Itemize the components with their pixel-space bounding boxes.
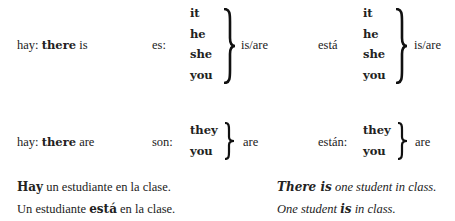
esta-bold: está	[89, 202, 117, 216]
pronoun-he: he	[190, 24, 213, 45]
sentence-rest: one student in class.	[332, 180, 437, 194]
es-pronoun-list: it he she you	[190, 3, 213, 85]
hay-label: hay:	[17, 135, 39, 149]
are-text: are	[79, 135, 94, 149]
sentence-pre: One student	[277, 202, 340, 216]
pronoun-he: he	[363, 24, 386, 45]
es-label: es:	[152, 38, 166, 52]
sentence-rest: in class.	[352, 202, 396, 216]
pronoun-they: they	[363, 120, 391, 141]
is-text: is	[79, 38, 87, 52]
right-brace-icon	[222, 8, 236, 84]
es-meaning: is/are	[241, 38, 268, 52]
is-bold: is	[340, 202, 351, 216]
esta-label: está	[318, 38, 337, 52]
pronoun-they: they	[190, 120, 218, 141]
there-bold: there	[42, 38, 76, 52]
hay-there-is: hay: there is	[17, 38, 88, 52]
sentence-rest: en la clase.	[117, 202, 175, 216]
estan-meaning: are	[415, 135, 430, 149]
estan-label: están:	[318, 135, 347, 149]
pronoun-it: it	[363, 3, 386, 24]
right-brace-icon	[394, 8, 408, 84]
pronoun-you: you	[190, 65, 213, 86]
son-pronoun-list: they you	[190, 120, 218, 161]
right-brace-icon	[396, 122, 408, 160]
there-is-bold: There is	[277, 180, 332, 194]
hay-there-are: hay: there are	[17, 135, 94, 149]
spanish-example-2: Un estudiante está en la clase.	[17, 202, 175, 217]
spanish-example-1: Hay un estudiante en la clase.	[17, 180, 171, 195]
pronoun-she: she	[190, 44, 213, 65]
english-example-1: There is one student in class.	[277, 180, 436, 195]
estan-pronoun-list: they you	[363, 120, 391, 161]
english-example-2: One student is in class.	[277, 202, 396, 217]
esta-pronoun-list: it he she you	[363, 3, 386, 85]
pronoun-you: you	[363, 141, 391, 162]
sentence-rest: un estudiante en la clase.	[43, 180, 171, 194]
hay-label: hay:	[17, 38, 39, 52]
esta-meaning: is/are	[414, 38, 441, 52]
pronoun-you: you	[190, 141, 218, 162]
hay-bold: Hay	[17, 180, 43, 194]
right-brace-icon	[223, 122, 235, 160]
pronoun-you: you	[363, 65, 386, 86]
son-label: son:	[152, 135, 173, 149]
son-meaning: are	[243, 135, 258, 149]
there-bold: there	[42, 135, 76, 149]
pronoun-she: she	[363, 44, 386, 65]
sentence-pre: Un estudiante	[17, 202, 89, 216]
pronoun-it: it	[190, 3, 213, 24]
